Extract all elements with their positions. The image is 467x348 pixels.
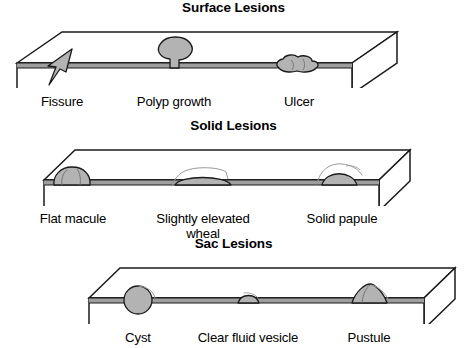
panel-solid-lesions: Solid Lesions <box>0 118 467 242</box>
slab-surface-lesions <box>0 16 467 88</box>
slab-sac-lesions <box>0 252 467 324</box>
slab-svg-solid-lesions <box>0 134 467 206</box>
slab-svg-sac-lesions <box>0 252 467 324</box>
slab-svg-surface-lesions <box>0 16 467 88</box>
panel-sac-lesions: Sac Lesions <box>0 236 467 348</box>
panel-title-surface-lesions: Surface Lesions <box>0 0 467 16</box>
label-ulcer: Ulcer <box>237 94 361 109</box>
panel-surface-lesions: Surface Lesions <box>0 0 467 120</box>
panel-title-sac-lesions: Sac Lesions <box>0 236 467 252</box>
slab-top-face <box>17 32 397 63</box>
skin-lesion-diagram: Surface Lesions <box>0 0 467 348</box>
label-flat-macule: Flat macule <box>11 211 135 226</box>
label-cyst: Cyst <box>76 330 200 345</box>
label-polyp-growth: Polyp growth <box>112 94 236 109</box>
label-clear-fluid-vesicle: Clear fluid vesicle <box>186 330 310 345</box>
slab-solid-lesions <box>0 134 467 206</box>
label-solid-papule: Solid papule <box>280 211 404 226</box>
label-pustule: Pustule <box>307 330 431 345</box>
labels-surface-lesions: Fissure Polyp growth Ulcer <box>0 88 467 120</box>
label-fissure: Fissure <box>0 94 124 109</box>
panel-title-solid-lesions: Solid Lesions <box>0 118 467 134</box>
labels-sac-lesions: Cyst Clear fluid vesicle Pustule <box>0 324 467 348</box>
